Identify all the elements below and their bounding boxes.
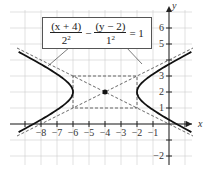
svg-text:2: 2 (159, 86, 164, 97)
svg-text:−2: −2 (153, 150, 164, 161)
svg-text:−2: −2 (132, 127, 143, 138)
svg-text:−3: −3 (116, 127, 127, 138)
svg-text:6: 6 (159, 22, 164, 33)
equation-box: (x + 4)22 − (y − 2)12 = 1 (42, 17, 152, 49)
svg-text:−6: −6 (68, 127, 79, 138)
svg-text:3: 3 (159, 70, 164, 81)
svg-text:−4: −4 (100, 127, 111, 138)
svg-text:1: 1 (159, 102, 164, 113)
svg-text:5: 5 (159, 38, 164, 49)
svg-text:−7: −7 (52, 127, 63, 138)
svg-text:y: y (171, 0, 177, 11)
svg-text:−5: −5 (84, 127, 95, 138)
svg-text:−8: −8 (36, 127, 47, 138)
svg-text:−1: −1 (148, 127, 159, 138)
svg-text:x: x (197, 118, 203, 129)
